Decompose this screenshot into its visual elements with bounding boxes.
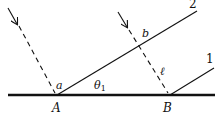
incident-arrow-b [118, 12, 127, 27]
label-a: a [56, 79, 63, 92]
label-b: b [142, 27, 149, 40]
label-ray-2: 2 [189, 0, 197, 11]
label-theta: θ1 [94, 79, 106, 93]
ray-2-line [57, 11, 197, 95]
incident-arrow-a [8, 8, 17, 24]
label-ray-1: 1 [206, 52, 214, 66]
label-B: B [162, 101, 172, 115]
theta-subscript: 1 [101, 84, 106, 93]
label-A: A [51, 101, 61, 115]
label-ell: ℓ [160, 65, 165, 78]
incident-dashed-line-a [19, 26, 55, 93]
ray-1-line [170, 68, 214, 95]
reflection-diagram: a θ1 A B b ℓ 1 2 [0, 0, 217, 117]
